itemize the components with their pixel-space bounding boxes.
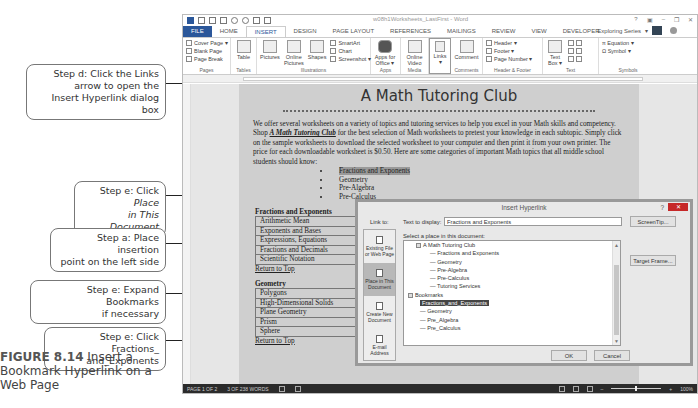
scroll-thumb[interactable]	[614, 265, 619, 335]
print-icon[interactable]	[253, 17, 260, 24]
read-mode-icon[interactable]	[559, 386, 565, 392]
drop-cap-icon[interactable]	[568, 56, 574, 62]
text-box-button[interactable]: Text Box ▾	[546, 40, 564, 66]
table-button[interactable]: Table	[234, 40, 253, 66]
close-icon[interactable]: ✕	[688, 16, 693, 23]
minimize-icon[interactable]: –	[662, 16, 665, 23]
equation-button[interactable]: π Equation ▾	[602, 40, 634, 46]
tab-insert[interactable]: INSERT	[246, 26, 286, 37]
horizontal-ruler[interactable]	[183, 75, 697, 83]
callout-text: Insert Hyperlink dialog box	[33, 92, 159, 116]
print-preview-icon[interactable]	[264, 17, 271, 24]
tab-references[interactable]: REFERENCES	[382, 26, 439, 37]
ribbon-display-icon[interactable]: ▣	[647, 16, 653, 23]
print-layout-icon[interactable]	[573, 386, 579, 392]
ok-button[interactable]: OK	[551, 350, 587, 361]
blank-page-button[interactable]: Blank Page	[186, 48, 228, 54]
tree-heading[interactable]: — Fractions and Exponents	[404, 249, 620, 257]
footer-button[interactable]: Footer ▾	[486, 48, 532, 54]
close-icon[interactable]: ✕	[668, 203, 688, 211]
callout-text: point on the left side	[57, 256, 159, 268]
tab-page-layout[interactable]: PAGE LAYOUT	[325, 26, 382, 37]
header-button[interactable]: Header ▾	[486, 40, 532, 46]
group-illustrations: Pictures Online Pictures Shapes SmartArt…	[257, 38, 371, 74]
restore-icon[interactable]: ❐	[674, 16, 679, 23]
online-video-button[interactable]: Online Video	[404, 40, 425, 66]
screenshot-button[interactable]: Screenshot ▾	[330, 56, 370, 62]
tab-mailings[interactable]: MAILINGS	[439, 26, 484, 37]
tree-bookmark[interactable]: — Pre_Algebra	[404, 316, 620, 324]
object-icon[interactable]	[576, 56, 582, 62]
web-layout-icon[interactable]	[587, 386, 593, 392]
link-to-new-document[interactable]: Create New Document	[364, 296, 395, 329]
shapes-button[interactable]: Shapes	[308, 40, 327, 66]
link-to-email[interactable]: E-mail Address	[364, 329, 395, 362]
scroll-up-icon[interactable]: ▲	[613, 241, 620, 249]
proofing-icon[interactable]	[279, 386, 285, 392]
tree-bookmark[interactable]: — Geometry	[404, 307, 620, 315]
feedback-icon[interactable]	[670, 27, 677, 34]
online-pictures-button[interactable]: Online Pictures	[284, 40, 304, 66]
group-label: Illustrations	[257, 67, 370, 73]
link-to-place-in-document[interactable]: Place in This Document	[364, 263, 395, 296]
help-icon[interactable]: ?	[634, 16, 637, 23]
links-dropdown-arrow[interactable]: ▾	[439, 59, 442, 65]
zoom-slider[interactable]	[611, 388, 661, 389]
pictures-button[interactable]: Pictures	[260, 40, 280, 66]
tree-root[interactable]: A Math Tutoring Club	[404, 241, 620, 249]
cancel-button[interactable]: Cancel	[594, 350, 630, 361]
user-account[interactable]: Exploring Series▾	[597, 26, 677, 35]
tree-bookmarks-node[interactable]: Bookmarks	[404, 291, 620, 299]
zoom-level[interactable]: 100%	[680, 386, 693, 392]
collapse-icon[interactable]	[416, 243, 421, 248]
redo-icon[interactable]	[242, 17, 249, 24]
zoom-out-button[interactable]: –	[601, 386, 604, 392]
macro-icon[interactable]	[295, 386, 301, 392]
undo-icon[interactable]	[231, 17, 238, 24]
page-number-button[interactable]: Page Number ▾	[486, 56, 532, 62]
tree-heading[interactable]: — Tutoring Services	[404, 282, 620, 290]
link-to-existing-file[interactable]: Existing File or Web Page	[364, 230, 395, 263]
page-count[interactable]: PAGE 1 OF 2	[187, 386, 217, 392]
tree-bookmark-selected[interactable]: Fractions_and_Exponents	[404, 299, 620, 307]
email-icon	[376, 335, 383, 343]
comment-button[interactable]: Comment	[454, 40, 479, 66]
target-frame-button[interactable]: Target Frame...	[630, 255, 676, 266]
word-count[interactable]: 3 OF 238 WORDS	[227, 386, 268, 392]
tree-bookmark[interactable]: — Pre_Calculus	[404, 324, 620, 332]
scroll-down-icon[interactable]: ▼	[613, 337, 620, 345]
tab-design[interactable]: DESIGN	[286, 26, 325, 37]
links-button[interactable]: Links▾	[433, 41, 447, 65]
tree-scrollbar[interactable]: ▲ ▼	[612, 241, 620, 345]
tab-view[interactable]: VIEW	[523, 26, 554, 37]
smartart-button[interactable]: SmartArt	[330, 40, 370, 46]
callout-step-e-expand: Step e: Expand Bookmarks if necessary	[30, 280, 166, 324]
quick-parts-icon[interactable]	[568, 40, 574, 46]
apps-for-office-button[interactable]: Apps for Office ▾	[374, 40, 396, 66]
text-box-icon	[548, 40, 562, 53]
signature-line-icon[interactable]	[576, 40, 582, 46]
tree-heading[interactable]: — Pre-Algebra	[404, 266, 620, 274]
place-tree[interactable]: A Math Tutoring Club — Fractions and Exp…	[403, 240, 621, 346]
screentip-button[interactable]: ScreenTip...	[630, 216, 676, 227]
page-break-button[interactable]: Page Break	[186, 56, 228, 62]
tree-heading[interactable]: — Pre-Calculus	[404, 274, 620, 282]
symbol-button[interactable]: Ω Symbol ▾	[602, 48, 634, 54]
tree-heading[interactable]: — Geometry	[404, 258, 620, 266]
collapse-icon[interactable]	[408, 293, 413, 298]
new-doc-icon[interactable]	[198, 17, 205, 24]
tab-review[interactable]: REVIEW	[484, 26, 524, 37]
chart-button[interactable]: Chart	[330, 48, 370, 54]
zoom-in-button[interactable]: +	[669, 386, 672, 392]
wordart-icon[interactable]	[568, 48, 574, 54]
vertical-ruler[interactable]	[183, 84, 191, 384]
text-to-display-input[interactable]: Fractions and Exponents	[444, 217, 622, 226]
tab-file[interactable]: FILE	[183, 26, 212, 37]
table-icon	[237, 40, 251, 53]
cover-page-button[interactable]: Cover Page ▾	[186, 40, 228, 46]
save-icon[interactable]	[209, 17, 216, 24]
tab-home[interactable]: HOME	[212, 26, 246, 37]
save-as-icon[interactable]	[220, 17, 227, 24]
help-icon[interactable]: ?	[660, 202, 664, 213]
date-time-icon[interactable]	[576, 48, 582, 54]
